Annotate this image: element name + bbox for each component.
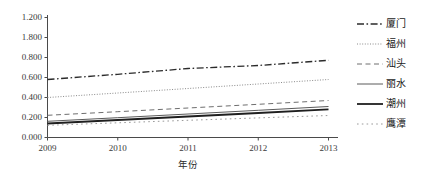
y-tick-label: 1.200: [8, 12, 42, 22]
legend-item-汕头[interactable]: 汕头: [357, 54, 423, 74]
legend-line-swatch: [357, 39, 383, 49]
series-line: [48, 101, 329, 116]
line-chart: 1.2001.8000.8000.6000.4000.2000.000 2009…: [0, 0, 426, 179]
legend-item-福州[interactable]: 福州: [357, 34, 423, 54]
legend-line-swatch: [357, 119, 383, 129]
series-line: [48, 80, 329, 98]
legend-label: 丽水: [386, 79, 406, 89]
series-line: [48, 107, 329, 122]
legend-line-swatch: [357, 19, 383, 29]
legend-item-丽水[interactable]: 丽水: [357, 74, 423, 94]
y-tick-label: 0.800: [8, 52, 42, 62]
x-axis-title: 年份: [148, 157, 228, 171]
legend-label: 潮州: [386, 99, 406, 109]
legend-item-潮州[interactable]: 潮州: [357, 94, 423, 114]
x-tick-label: 2010: [98, 143, 138, 153]
y-tick-label: 0.200: [8, 112, 42, 122]
legend-line-swatch: [357, 79, 383, 89]
legend-line-swatch: [357, 99, 383, 109]
legend-item-鹰潭[interactable]: 鹰潭: [357, 114, 423, 134]
x-tick-label: 2009: [28, 143, 68, 153]
x-tick-label: 2013: [309, 143, 349, 153]
legend-label: 汕头: [386, 59, 406, 69]
data-series-group: [48, 60, 329, 125]
y-tick-label: 1.800: [8, 32, 42, 42]
legend-label: 鹰潭: [386, 119, 406, 129]
series-line: [48, 109, 329, 123]
x-tick-label: 2012: [238, 143, 278, 153]
y-tick-label: 0.000: [8, 132, 42, 142]
y-tick-label: 0.400: [8, 92, 42, 102]
legend-label: 厦门: [386, 19, 406, 29]
series-line: [48, 60, 329, 79]
legend-item-厦门[interactable]: 厦门: [357, 14, 423, 34]
legend-label: 福州: [386, 39, 406, 49]
y-tick-label: 0.600: [8, 72, 42, 82]
chart-legend: 厦门福州汕头丽水潮州鹰潭: [357, 14, 423, 134]
legend-line-swatch: [357, 59, 383, 69]
x-tick-label: 2011: [168, 143, 208, 153]
